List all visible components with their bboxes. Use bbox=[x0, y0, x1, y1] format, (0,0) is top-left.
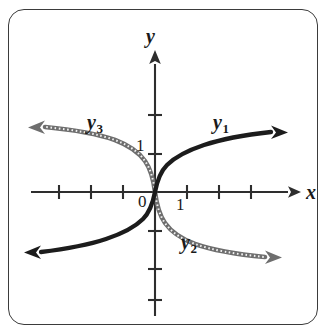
x-axis-label: x bbox=[306, 182, 316, 202]
curve-label-y1: y1 bbox=[213, 112, 229, 135]
curve-label-y3: y3 bbox=[87, 112, 103, 135]
curve-label-y1-subscript: 1 bbox=[222, 121, 229, 136]
x-axis-arrowhead bbox=[288, 186, 301, 198]
graph-canvas bbox=[0, 0, 331, 336]
y-axis-label: y bbox=[146, 26, 155, 46]
curve-label-y3-subscript: 3 bbox=[96, 121, 103, 136]
curve-label-y3-base: y bbox=[87, 111, 96, 133]
curve-y2-lower-right-branch bbox=[155, 192, 265, 257]
curve-label-y2-base: y bbox=[181, 231, 190, 253]
curve-y2-arrowhead bbox=[265, 251, 282, 265]
origin-label: 0 bbox=[138, 193, 147, 210]
y-axis-arrowhead bbox=[149, 50, 161, 64]
curve-label-y2-subscript: 2 bbox=[190, 241, 197, 256]
curve-y1-lower-left-arrowhead bbox=[24, 246, 41, 260]
x-axis-group bbox=[31, 186, 301, 198]
curve-y1-upper-right-branch bbox=[155, 132, 271, 192]
x-unit-tick-label: 1 bbox=[176, 196, 185, 213]
curve-label-y1-base: y bbox=[213, 111, 222, 133]
curve-y3-arrowhead bbox=[28, 121, 45, 135]
y-unit-tick-label: 1 bbox=[136, 137, 145, 154]
figure-root: y x 1 0 1 y1 y2 y3 bbox=[0, 0, 331, 336]
curve-y1-arrowhead bbox=[271, 126, 288, 140]
curve-label-y2: y2 bbox=[181, 232, 197, 255]
